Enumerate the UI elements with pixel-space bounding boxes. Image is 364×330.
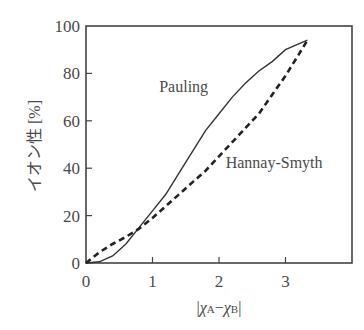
x-tick-label: 2 [215,272,224,291]
pauling-label: Pauling [159,78,208,96]
x-axis-minus: − [215,299,224,316]
y-tick-label: 40 [63,159,80,178]
x-axis-bar-right: | [238,299,241,317]
x-axis-title: |χA−χB| [197,299,242,317]
hannay-smyth-label: Hannay-Smyth [226,154,323,172]
y-tick-label: 100 [55,17,81,36]
x-axis-ticks: 0123 [82,257,290,291]
y-axis-title: イオン性 [%] [26,100,43,192]
x-axis-sub-a: A [207,303,215,315]
y-tick-label: 20 [63,207,80,226]
y-tick-label: 60 [63,112,80,131]
x-axis-sub-b: B [231,303,238,315]
x-tick-label: 0 [82,272,91,291]
pauling-curve [86,40,307,263]
x-tick-label: 1 [148,272,157,291]
chart-svg: 020406080100 0123 Pauling Hannay-Smyth イ… [0,0,364,330]
x-tick-label: 3 [281,272,290,291]
y-tick-label: 0 [72,254,81,273]
plot-frame [86,26,352,263]
hannay-smyth-curve [86,40,307,263]
ionic-character-chart: 020406080100 0123 Pauling Hannay-Smyth イ… [0,0,364,330]
y-tick-label: 80 [63,64,80,83]
